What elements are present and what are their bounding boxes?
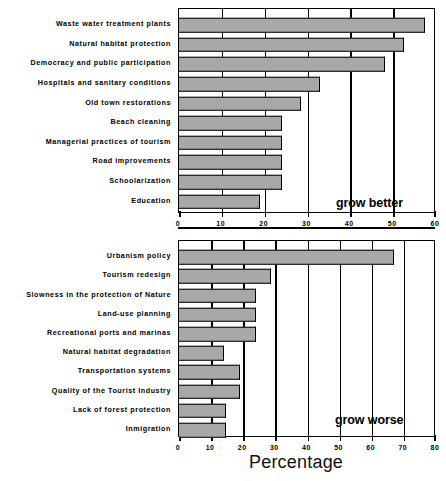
bar — [179, 194, 260, 209]
category-label: Quality of the Tourist Industry — [52, 387, 171, 394]
x-axis-tick-label: 50 — [388, 220, 397, 227]
category-label: Schoolarization — [109, 177, 171, 184]
category-label: Transportation systems — [78, 368, 171, 375]
category-label: Slowness in the protection of Nature — [26, 291, 171, 298]
x-axis-tick — [372, 435, 374, 441]
x-axis-tick-label: 20 — [238, 444, 247, 451]
category-label: Tourism redesign — [102, 272, 171, 279]
category-label: Democracy and public participation — [30, 60, 171, 67]
bar — [179, 308, 256, 323]
x-axis-tick — [434, 435, 436, 441]
bar — [179, 136, 282, 151]
x-axis-tick — [275, 435, 277, 441]
category-label: Education — [131, 197, 171, 204]
x-axis-tick-label: 40 — [345, 220, 354, 227]
chart-page: Waste water treatment plantsNatural habi… — [0, 0, 446, 481]
x-axis-tick-label: 10 — [206, 444, 215, 451]
x-axis-tick-label: 60 — [366, 444, 375, 451]
x-axis-tick — [179, 211, 181, 217]
x-axis-tick-label: 50 — [334, 444, 343, 451]
top-axis-baseline — [178, 227, 435, 229]
gridline — [404, 241, 406, 436]
x-axis-tick-label: 20 — [259, 220, 268, 227]
x-axis-tick — [308, 211, 310, 217]
x-axis-tick — [308, 435, 310, 441]
category-label: Waste water treatment plants — [56, 21, 171, 28]
gridline — [308, 241, 310, 436]
bar — [179, 77, 320, 92]
x-axis-title: Percentage — [249, 452, 343, 473]
x-axis-tick — [434, 211, 436, 217]
category-label: Inmigration — [126, 425, 171, 432]
x-axis-tick-label: 70 — [398, 444, 407, 451]
bar — [179, 18, 425, 33]
category-label: Natural habitat degradation — [63, 349, 171, 356]
category-label: Lack of forest protection — [73, 406, 171, 413]
x-axis-tick-label: 0 — [176, 444, 181, 451]
bar — [179, 269, 271, 284]
bar — [179, 38, 404, 53]
annotation-grow-better: grow better — [336, 196, 403, 210]
category-labels-bottom: Urbanism policyTourism redesignSlowness … — [0, 240, 175, 437]
category-label: Beach cleaning — [111, 119, 171, 126]
bar — [179, 96, 301, 111]
category-label: Hospitals and sanitary conditions — [38, 79, 171, 86]
bar — [179, 155, 282, 170]
bar — [179, 116, 282, 131]
x-axis-tick — [350, 211, 352, 217]
x-axis-tick — [340, 435, 342, 441]
x-axis-tick — [243, 435, 245, 441]
x-axis-tick-label: 40 — [302, 444, 311, 451]
category-label: Recreational ports and marinas — [47, 329, 171, 336]
category-label: Road improvements — [93, 158, 171, 165]
chart-panel-grow-worse: Urbanism policyTourism redesignSlowness … — [0, 240, 446, 437]
gridline — [340, 241, 342, 436]
bar — [179, 346, 224, 361]
category-label: Natural habitat protection — [69, 40, 171, 47]
category-label: Managerial practices of tourism — [46, 138, 171, 145]
x-axis-tick-label: 30 — [302, 220, 311, 227]
gridline — [372, 241, 374, 436]
bar — [179, 250, 394, 265]
category-label: Land-use planning — [98, 310, 171, 317]
plot-area-top — [178, 8, 435, 213]
x-axis-tick-label: 30 — [270, 444, 279, 451]
bar — [179, 365, 240, 380]
bar — [179, 404, 226, 419]
bar — [179, 57, 385, 72]
annotation-grow-worse: grow worse — [335, 413, 403, 427]
plot-area-bottom — [178, 240, 435, 437]
x-axis-tick — [265, 211, 267, 217]
x-axis-tick-label: 80 — [431, 444, 440, 451]
bar — [179, 327, 256, 342]
chart-panel-grow-better: Waste water treatment plantsNatural habi… — [0, 8, 446, 213]
x-axis-tick — [222, 211, 224, 217]
bar — [179, 423, 226, 438]
category-label: Old town restorations — [85, 99, 171, 106]
x-axis-tick-label: 0 — [176, 220, 181, 227]
category-label: Urbanism policy — [107, 253, 171, 260]
bar — [179, 288, 256, 303]
x-axis-tick — [404, 435, 406, 441]
category-labels-top: Waste water treatment plantsNatural habi… — [0, 8, 175, 213]
bar — [179, 175, 282, 190]
gridline — [275, 241, 277, 436]
bar — [179, 384, 240, 399]
x-axis-tick-label: 60 — [431, 220, 440, 227]
x-axis-tick-label: 10 — [216, 220, 225, 227]
x-axis-tick — [393, 211, 395, 217]
